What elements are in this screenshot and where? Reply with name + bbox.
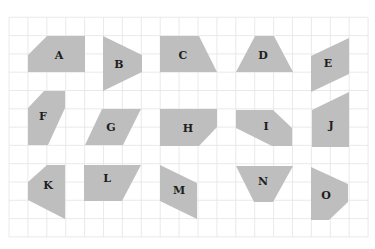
- shape-label: I: [263, 120, 268, 133]
- shape-label: M: [173, 184, 185, 197]
- shapes-layer: ABCDEFGHIJKLMNO: [28, 36, 349, 220]
- shape-l: L: [84, 165, 141, 201]
- shape-i: I: [236, 110, 292, 146]
- shape-m: M: [160, 165, 197, 219]
- shape-label: L: [103, 172, 111, 185]
- shape-label: N: [258, 175, 268, 188]
- polygon-l: [84, 165, 141, 201]
- shape-label: J: [327, 119, 333, 132]
- shape-label: D: [258, 49, 268, 62]
- shape-label: A: [54, 49, 64, 62]
- shape-f: F: [28, 91, 65, 145]
- shape-n: N: [236, 166, 293, 202]
- shape-label: C: [179, 49, 188, 62]
- shape-grid-diagram: ABCDEFGHIJKLMNO: [0, 0, 375, 249]
- shape-h: H: [160, 109, 217, 146]
- shape-o: O: [311, 167, 348, 220]
- shape-label: E: [324, 57, 332, 70]
- shape-label: B: [114, 58, 123, 71]
- shape-label: G: [106, 121, 115, 134]
- shape-label: F: [39, 110, 47, 123]
- shape-label: K: [43, 179, 53, 192]
- shape-a: A: [28, 36, 85, 72]
- diagram-canvas: ABCDEFGHIJKLMNO: [0, 0, 375, 249]
- shape-label: O: [321, 189, 331, 202]
- shape-label: H: [183, 122, 193, 135]
